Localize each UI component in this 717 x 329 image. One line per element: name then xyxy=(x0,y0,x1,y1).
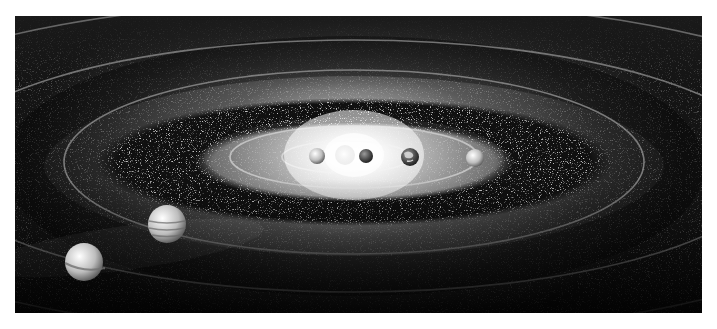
planet-mars xyxy=(466,149,484,167)
planet-earth xyxy=(401,148,419,166)
planet-venus xyxy=(335,145,355,165)
solar-system-illustration xyxy=(15,16,702,313)
planet-jupiter xyxy=(148,205,186,243)
planet-small-dark xyxy=(359,149,373,163)
planet-mercury xyxy=(309,148,325,164)
solar-system-image xyxy=(15,16,702,313)
